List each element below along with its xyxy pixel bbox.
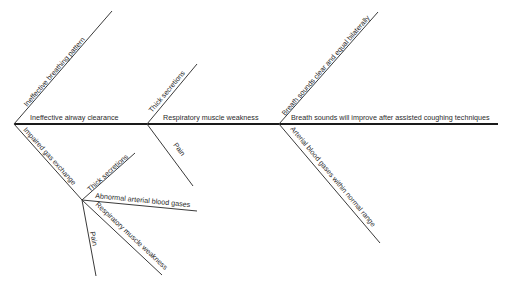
bone-arterial-blood-gases-normal: Arterial blood gases within normal range	[279, 124, 380, 243]
bone-label: Thick secretions	[147, 68, 188, 114]
bone-line	[279, 124, 380, 243]
bone-label: Impaired gas exchange	[22, 125, 79, 187]
label-breath-sounds-will-improve: Breath sounds will improve after assiste…	[291, 113, 490, 122]
bone-line	[14, 124, 82, 200]
bone-label: Pain	[171, 141, 187, 158]
bone-breath-sounds-clear: Breath sounds clear and equal bilaterall…	[279, 12, 378, 124]
label-ineffective-airway-clearance: Ineffective airway clearance	[30, 113, 119, 122]
bone-label: Breath sounds clear and equal bilaterall…	[280, 13, 372, 117]
bone-label: Ineffective breathing pattern	[22, 35, 87, 108]
bone-ineffective-breathing-pattern: Ineffective breathing pattern	[14, 11, 112, 124]
bone-label: Thick secretions	[85, 152, 130, 194]
bone-impaired-gas-exchange: Impaired gas exchange	[14, 124, 82, 200]
bone-line	[147, 124, 193, 186]
bone-label: Abnormal arterial blood gases	[95, 191, 191, 209]
bone-pain-upper: Pain	[147, 124, 193, 186]
bone-label: Arterial blood gases within normal range	[288, 125, 377, 229]
fishbone-diagram: Ineffective airway clearance Respiratory…	[0, 0, 511, 287]
label-respiratory-muscle-weakness: Respiratory muscle weakness	[163, 113, 259, 122]
bone-pain-lower: Pain	[82, 200, 100, 276]
bone-label: Respiratory muscle weakness	[94, 200, 170, 272]
segment-labels: Ineffective airway clearance Respiratory…	[30, 113, 490, 122]
